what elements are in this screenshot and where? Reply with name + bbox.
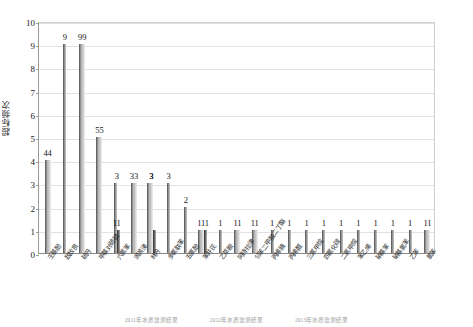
bar-group[interactable]: 1 xyxy=(263,23,280,253)
bar-chart-figure: 超标频次 01234567891044999553333321111111111… xyxy=(0,0,473,327)
bar-value-label: 44 xyxy=(44,148,52,158)
bar-group[interactable]: 1 xyxy=(298,23,315,253)
bar-value-label: 1 xyxy=(218,218,222,228)
bar-group[interactable]: 3 xyxy=(108,23,125,253)
legend-entry: 2013年水质监测结果 xyxy=(295,317,348,323)
y-axis-tick-label: 4 xyxy=(31,157,36,167)
bar-group[interactable]: 2 xyxy=(177,23,194,253)
bar[interactable] xyxy=(391,230,394,253)
y-axis-tick-label: 9 xyxy=(31,41,36,51)
bar-value-label: 33 xyxy=(130,171,138,181)
bar-value-label: 1 xyxy=(339,218,343,228)
y-axis-tick-label: 8 xyxy=(31,64,36,74)
bar-value-label: 1 xyxy=(374,218,378,228)
plot-area: 0123456789104499955333332111111111111111… xyxy=(38,22,435,254)
bar-value-label: 1 xyxy=(305,218,309,228)
bar[interactable] xyxy=(134,183,137,253)
bar-value-label: 55 xyxy=(95,125,103,135)
bar[interactable] xyxy=(288,230,291,253)
bar-group[interactable]: 55 xyxy=(91,23,108,253)
y-axis-title: 超标频次 xyxy=(2,100,16,136)
bar-group[interactable]: 1 xyxy=(367,23,384,253)
bar-group[interactable]: 11 xyxy=(229,23,246,253)
y-axis-tick-label: 7 xyxy=(31,88,36,98)
bar-value-label: 1 xyxy=(322,218,326,228)
y-axis-tick-mark xyxy=(36,255,39,256)
bar-value-label: 111 xyxy=(197,218,209,228)
bar[interactable] xyxy=(99,137,102,253)
bar-value-label: 99 xyxy=(78,32,86,42)
bar-group[interactable]: 3 xyxy=(143,23,160,253)
legend-entry: 2012年水质监测结果 xyxy=(210,317,263,323)
bar-group[interactable]: 1 xyxy=(212,23,229,253)
bar-group[interactable]: 111 xyxy=(194,23,211,253)
bar-group[interactable]: 1 xyxy=(281,23,298,253)
y-axis-tick-label: 0 xyxy=(31,250,36,260)
bar-group[interactable]: 1 xyxy=(332,23,349,253)
bar-group[interactable]: 11 xyxy=(246,23,263,253)
bar-value-label: 9 xyxy=(63,32,67,42)
bar-value-label: 2 xyxy=(184,195,188,205)
bar-value-label: 3 xyxy=(166,171,170,181)
legend-entry: 2011年水质监测结果 xyxy=(125,317,178,323)
bar-group[interactable]: 33 xyxy=(125,23,142,253)
bar-value-label: 11 xyxy=(251,218,259,228)
bar-group[interactable]: 11 xyxy=(419,23,436,253)
bar-value-label: 1 xyxy=(391,218,395,228)
bar-value-label: 11 xyxy=(234,218,242,228)
bar-value-label: 1 xyxy=(408,218,412,228)
bar[interactable] xyxy=(82,44,85,253)
y-axis-tick-label: 6 xyxy=(31,111,36,121)
bar[interactable] xyxy=(63,44,66,253)
bar-group[interactable]: 1 xyxy=(384,23,401,253)
bar-value-label: 1 xyxy=(287,218,291,228)
y-axis-tick-label: 10 xyxy=(26,18,35,28)
y-axis-tick-label: 1 xyxy=(31,227,36,237)
bar-group[interactable]: 1 xyxy=(401,23,418,253)
bar[interactable] xyxy=(167,183,170,253)
y-axis-tick-label: 2 xyxy=(31,204,36,214)
y-axis-tick-label: 3 xyxy=(31,180,36,190)
bar[interactable] xyxy=(184,207,187,253)
bar-group[interactable]: 44 xyxy=(39,23,56,253)
bar-group[interactable]: 3 xyxy=(160,23,177,253)
bar-group[interactable]: 99 xyxy=(74,23,91,253)
bar[interactable] xyxy=(374,230,377,253)
bar-value-label: 3 xyxy=(115,171,119,181)
bar-group[interactable]: 1 xyxy=(315,23,332,253)
bar-value-label: 11 xyxy=(423,218,431,228)
bar[interactable] xyxy=(219,230,222,253)
chart-legend-caption: 2011年水质监测结果2012年水质监测结果2013年水质监测结果 xyxy=(0,316,473,327)
bar-value-label: 3 xyxy=(149,171,153,181)
y-axis-tick-label: 5 xyxy=(31,134,36,144)
bar-value-label: 1 xyxy=(356,218,360,228)
bar-group[interactable]: 1 xyxy=(350,23,367,253)
bar[interactable] xyxy=(305,230,308,253)
bar-group[interactable]: 9 xyxy=(56,23,73,253)
bar[interactable] xyxy=(48,160,51,253)
